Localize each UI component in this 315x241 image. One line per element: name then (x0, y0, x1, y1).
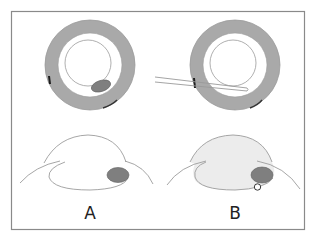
panel-a-top-view (45, 20, 135, 110)
panel-b-tick-mark (194, 78, 195, 88)
panel-a-label: A (84, 203, 96, 223)
panel-a-lesion-side (107, 168, 129, 183)
panel-b-lesion-side (251, 167, 273, 183)
panel-a-ring-opening (58, 33, 122, 97)
panel-a-tick-mark (49, 76, 50, 84)
panel-b-small-circle (254, 184, 260, 190)
panel-b-label: B (229, 203, 241, 223)
diagram-figure: A B (0, 0, 315, 241)
